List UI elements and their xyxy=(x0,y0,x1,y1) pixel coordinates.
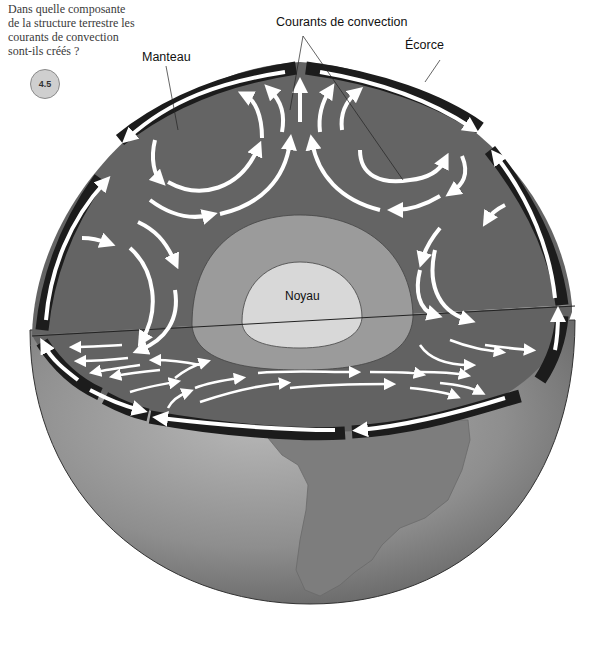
label-core: Noyau xyxy=(285,289,320,303)
label-convection-currents: Courants de convection xyxy=(276,15,407,29)
earth-convection-diagram xyxy=(0,0,597,649)
label-crust: Écorce xyxy=(405,38,444,52)
label-mantle: Manteau xyxy=(142,50,191,64)
